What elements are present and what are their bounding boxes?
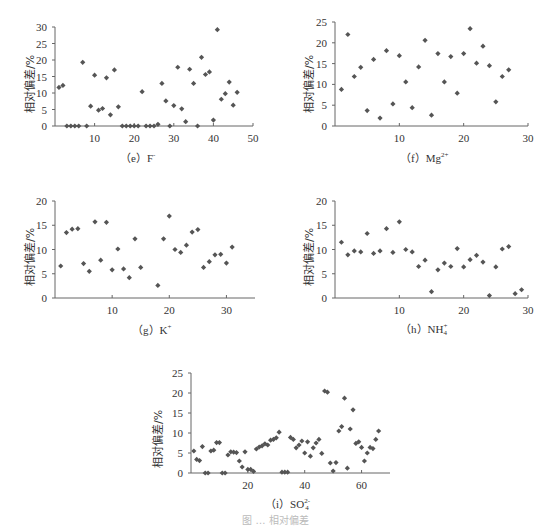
data-point [242,449,247,454]
data-point [58,263,63,268]
data-point [64,230,69,235]
chart-g-plot: 05101520102030 [0,180,275,340]
data-point [231,103,236,108]
y-tick-label: 20 [36,54,48,66]
data-point [308,454,313,459]
data-point [98,258,103,263]
data-point [345,252,350,257]
data-point [155,283,160,288]
chart-e-caption: （e）F- [120,149,155,165]
data-point [397,219,402,224]
data-point [410,105,415,110]
x-tick-label: 40 [208,132,220,144]
data-point [277,430,282,435]
chart-e-ylabel: 相对偏差/% [21,43,37,113]
y-tick-label: 10 [36,244,48,256]
data-point [215,27,220,32]
data-point [311,445,316,450]
data-point [435,51,440,56]
data-point [240,464,245,469]
chart-i-ylabel: 相对偏差/% [149,398,165,468]
data-point [115,246,120,251]
data-point [448,264,453,269]
chart-i-plot: 0510152025204060 [130,340,410,512]
data-point [352,74,357,79]
chart-f-caption: （f）Mg2+ [400,149,448,165]
data-point [224,260,229,265]
y-tick-label: 25 [316,16,328,28]
chart-h-ylabel: 相对偏差/% [300,216,316,286]
data-point [223,91,228,96]
data-point [359,445,364,450]
data-point [161,236,166,241]
y-tick-label: 0 [322,292,328,304]
chart-e-fluoride: 0510152025301020304050 相对偏差/% （e）F- [0,0,275,175]
x-tick-label: 50 [248,132,260,144]
chart-h-caption: （h）NH+4 [400,320,447,337]
data-point [190,229,195,234]
data-point [132,236,137,241]
data-point [350,407,355,412]
y-tick-label: 10 [316,78,328,90]
data-point [416,64,421,69]
data-point [237,458,242,463]
y-tick-label: 5 [42,268,48,280]
data-point [435,267,440,272]
x-tick-label: 30 [523,132,535,144]
y-tick-label: 0 [42,120,48,132]
data-point [305,439,310,444]
data-point [84,123,89,128]
data-point [203,72,208,77]
data-point [199,55,204,60]
x-tick-label: 20 [242,479,254,491]
data-point [172,247,177,252]
data-point [207,69,212,74]
data-point [487,293,492,298]
x-tick-label: 20 [164,304,176,316]
data-point [121,266,126,271]
data-point [116,104,121,109]
y-tick-label: 0 [322,120,328,132]
chart-h-plot: 05101520102030 [275,180,551,340]
data-point [195,227,200,232]
data-point [285,470,290,475]
data-point [92,73,97,78]
data-point [506,67,511,72]
data-point [140,89,145,94]
data-point [136,123,141,128]
data-point [487,63,492,68]
data-point [159,81,164,86]
data-point [110,267,115,272]
data-point [76,123,81,128]
data-point [179,106,184,111]
y-tick-label: 10 [36,87,48,99]
data-point [352,248,357,253]
y-tick-label: 15 [36,71,48,83]
data-point [212,252,217,257]
x-tick-label: 20 [129,132,141,144]
data-point [316,437,321,442]
data-point [390,250,395,255]
y-tick-label: 25 [36,38,48,50]
data-point [376,428,381,433]
data-point [235,90,240,95]
data-point [403,79,408,84]
y-tick-label: 20 [172,387,184,399]
y-tick-label: 15 [316,58,328,70]
data-point [480,260,485,265]
data-point [104,75,109,80]
data-point [207,259,212,264]
data-point [422,258,427,263]
data-point [377,115,382,120]
data-point [384,226,389,231]
x-tick-label: 10 [89,132,101,144]
y-tick-label: 30 [36,21,48,33]
data-point [183,119,188,124]
data-point [227,80,232,85]
data-point [195,123,200,128]
chart-g-ylabel: 相对偏差/% [21,216,37,286]
y-tick-label: 10 [172,427,184,439]
data-point [468,26,473,31]
data-point [461,51,466,56]
data-point [390,101,395,106]
